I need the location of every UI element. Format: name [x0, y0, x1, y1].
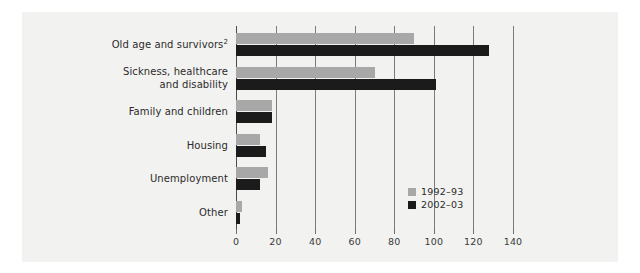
gridline: [315, 26, 316, 229]
x-axis-tick-label: 60: [348, 236, 361, 247]
legend-swatch-1992-93: [408, 188, 416, 196]
gridline: [276, 26, 277, 229]
x-axis-tick: [315, 229, 316, 234]
x-axis-tick: [394, 229, 395, 234]
footnote-marker: 2: [223, 38, 228, 46]
bar-2002-03: [236, 146, 266, 157]
chart-legend: 1992–93 2002–03: [408, 185, 463, 211]
legend-item: 2002–03: [408, 198, 463, 211]
legend-label-2002-03: 2002–03: [421, 199, 463, 210]
x-axis-tick-label: 120: [464, 236, 483, 247]
category-label: Old age and survivors2: [48, 38, 228, 51]
bar-2002-03: [236, 45, 489, 56]
category-label: Other: [48, 206, 228, 219]
category-label: Unemployment: [48, 172, 228, 185]
bar-1992-93: [236, 33, 414, 44]
bar-1992-93: [236, 167, 268, 178]
bar-1992-93: [236, 100, 272, 111]
bar-2002-03: [236, 179, 260, 190]
category-label: Housing: [48, 139, 228, 152]
x-axis-tick-label: 20: [269, 236, 282, 247]
bar-2002-03: [236, 79, 436, 90]
bar-1992-93: [236, 201, 242, 212]
x-axis-tick: [513, 229, 514, 234]
plot-area: 020406080100120140Old age and survivors2…: [236, 26, 513, 229]
x-axis-tick-label: 100: [424, 236, 443, 247]
x-axis-tick: [434, 229, 435, 234]
value-axis-line: [236, 26, 237, 229]
x-axis-tick-label: 40: [309, 236, 322, 247]
bar-2002-03: [236, 112, 272, 123]
x-axis-tick: [276, 229, 277, 234]
x-axis-tick-label: 0: [233, 236, 239, 247]
gridline: [355, 26, 356, 229]
x-axis-tick: [355, 229, 356, 234]
chart-panel: 020406080100120140Old age and survivors2…: [22, 12, 618, 262]
gridline: [394, 26, 395, 229]
legend-label-1992-93: 1992–93: [421, 186, 463, 197]
bar-1992-93: [236, 134, 260, 145]
category-label: Family and children: [48, 105, 228, 118]
category-label: Sickness, healthcareand disability: [48, 65, 228, 91]
x-axis-tick: [236, 229, 237, 234]
x-axis-tick-label: 140: [504, 236, 523, 247]
legend-swatch-2002-03: [408, 201, 416, 209]
bar-1992-93: [236, 67, 375, 78]
x-axis-tick: [473, 229, 474, 234]
gridline: [473, 26, 474, 229]
x-axis-tick-label: 80: [388, 236, 401, 247]
legend-item: 1992–93: [408, 185, 463, 198]
gridline: [513, 26, 514, 229]
bar-2002-03: [236, 213, 240, 224]
